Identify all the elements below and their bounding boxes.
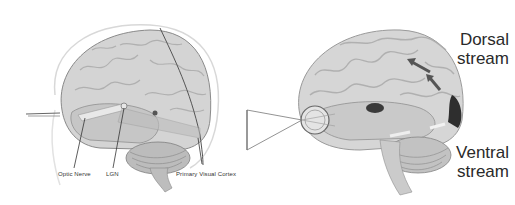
dorsal-stream-label: Dorsal stream	[457, 30, 509, 68]
primary-visual-cortex-label: Primary Visual Cortex	[176, 171, 236, 177]
optic-nerve-label: Optic Nerve	[58, 171, 91, 177]
left-brain-figure: Optic Nerve LGN Primary Visual Cortex	[0, 0, 240, 205]
right-brain-figure: Dorsal stream Ventral stream	[240, 0, 515, 205]
dorsal-line2: stream	[457, 49, 509, 68]
ventral-line1: Ventral	[456, 143, 509, 162]
dorsal-line1: Dorsal	[457, 30, 509, 49]
ventral-stream-label: Ventral stream	[456, 143, 509, 181]
ventral-line2: stream	[456, 162, 509, 181]
lgn-label: LGN	[106, 171, 119, 177]
